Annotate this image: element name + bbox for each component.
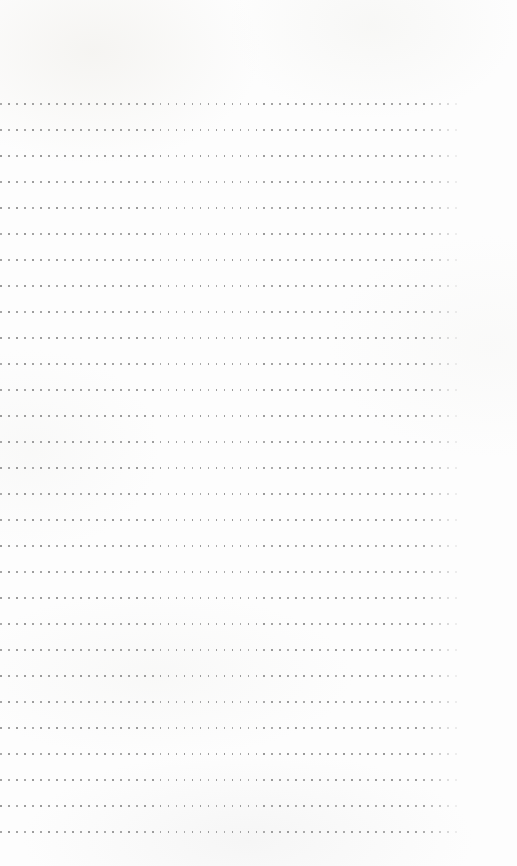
grid-dot (88, 285, 90, 287)
grid-dot (367, 805, 369, 807)
grid-dot (224, 155, 226, 157)
grid-dot (56, 805, 58, 807)
grid-dot (136, 831, 138, 833)
grid-dot (8, 727, 10, 729)
grid-dot (359, 129, 361, 131)
dot-row (0, 649, 517, 652)
grid-dot (8, 779, 10, 781)
grid-dot (216, 285, 218, 287)
grid-dot (327, 597, 329, 599)
grid-dot (208, 467, 210, 469)
grid-dot (263, 467, 265, 469)
grid-dot (16, 285, 18, 287)
grid-dot (56, 389, 58, 391)
grid-dot (343, 415, 345, 417)
grid-dot (88, 415, 90, 417)
grid-dot (375, 415, 377, 417)
grid-dot (423, 181, 425, 183)
grid-dot (72, 727, 74, 729)
grid-dot (391, 415, 393, 417)
grid-dot (56, 285, 58, 287)
grid-dot (48, 519, 50, 521)
grid-dot (327, 649, 329, 651)
grid-dot (208, 285, 210, 287)
grid-dot (232, 285, 234, 287)
grid-dot (423, 103, 425, 105)
grid-dot (152, 415, 154, 417)
grid-dot (319, 103, 321, 105)
grid-dot (447, 597, 449, 599)
grid-dot (96, 233, 98, 235)
grid-dot (192, 493, 194, 495)
grid-dot (279, 207, 281, 209)
grid-dot (208, 129, 210, 131)
grid-dot (407, 623, 409, 625)
grid-dot (367, 519, 369, 521)
grid-dot (88, 675, 90, 677)
grid-dot (351, 597, 353, 599)
grid-dot (287, 285, 289, 287)
grid-dot (80, 129, 82, 131)
dot-row (0, 363, 517, 366)
grid-dot (248, 753, 250, 755)
grid-dot (343, 311, 345, 313)
grid-dot (431, 675, 433, 677)
grid-dot (391, 207, 393, 209)
grid-dot (439, 571, 441, 573)
grid-dot (184, 415, 186, 417)
grid-dot (24, 155, 26, 157)
grid-dot (343, 649, 345, 651)
grid-dot (216, 623, 218, 625)
grid-dot (216, 545, 218, 547)
grid-dot (439, 155, 441, 157)
grid-dot (216, 389, 218, 391)
grid-dot (279, 753, 281, 755)
grid-dot (152, 285, 154, 287)
grid-dot (359, 571, 361, 573)
grid-dot (240, 103, 242, 105)
grid-dot (48, 493, 50, 495)
grid-dot (120, 129, 122, 131)
grid-dot (295, 675, 297, 677)
grid-dot (423, 233, 425, 235)
grid-dot (40, 753, 42, 755)
grid-dot (232, 441, 234, 443)
grid-dot (439, 311, 441, 313)
grid-dot (367, 493, 369, 495)
grid-dot (32, 441, 34, 443)
grid-dot (375, 129, 377, 131)
grid-dot (16, 519, 18, 521)
grid-dot (271, 233, 273, 235)
grid-dot (423, 623, 425, 625)
grid-dot (439, 259, 441, 261)
grid-dot (327, 207, 329, 209)
grid-dot (311, 545, 313, 547)
grid-dot (192, 363, 194, 365)
grid-dot (120, 493, 122, 495)
grid-dot (367, 155, 369, 157)
dot-row (0, 727, 517, 730)
grid-dot (423, 779, 425, 781)
grid-dot (0, 259, 2, 261)
grid-dot (144, 337, 146, 339)
grid-dot (112, 571, 114, 573)
dot-row (0, 259, 517, 262)
grid-dot (423, 207, 425, 209)
grid-dot (80, 493, 82, 495)
grid-dot (335, 753, 337, 755)
grid-dot (8, 545, 10, 547)
grid-dot (72, 337, 74, 339)
grid-dot (48, 233, 50, 235)
grid-dot (64, 519, 66, 521)
grid-dot (200, 623, 202, 625)
grid-dot (168, 259, 170, 261)
grid-dot (208, 415, 210, 417)
grid-dot (359, 363, 361, 365)
grid-dot (16, 571, 18, 573)
grid-dot (279, 181, 281, 183)
grid-dot (216, 649, 218, 651)
grid-dot (383, 415, 385, 417)
grid-dot (32, 571, 34, 573)
grid-dot (232, 623, 234, 625)
grid-dot (48, 649, 50, 651)
